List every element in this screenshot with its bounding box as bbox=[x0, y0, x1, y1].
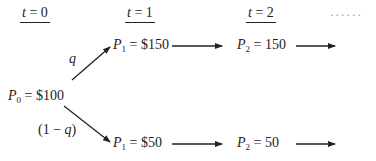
arrow-down-branch bbox=[64, 106, 110, 142]
arrow-up-branch bbox=[72, 47, 110, 80]
tree-arrows bbox=[0, 0, 376, 161]
